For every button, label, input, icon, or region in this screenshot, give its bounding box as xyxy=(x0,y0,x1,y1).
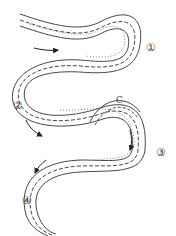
label-1: ① xyxy=(146,42,156,53)
flow-arrow-1 xyxy=(34,48,58,50)
river-centerline xyxy=(18,20,138,235)
label-2: ② xyxy=(13,100,23,111)
label-3: ③ xyxy=(156,147,166,158)
river-former-channel xyxy=(30,24,125,57)
label-4: ④ xyxy=(22,195,32,206)
label-c: C xyxy=(116,96,123,105)
